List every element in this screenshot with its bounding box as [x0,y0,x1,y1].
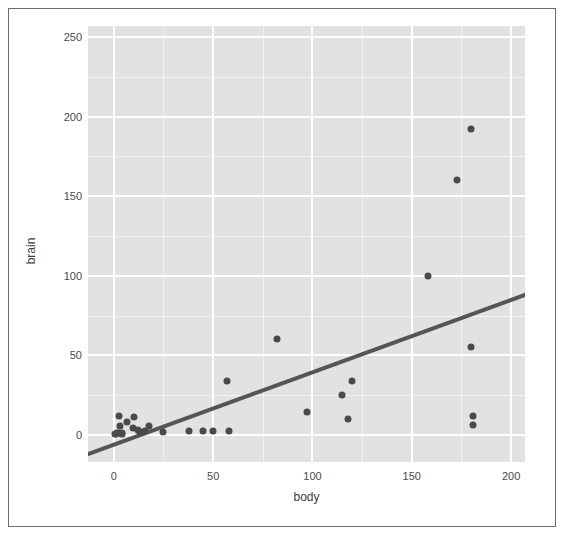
data-point [210,427,217,434]
y-axis-label: brain [24,238,38,265]
data-point [468,126,475,133]
y-tick-label-0: 0 [52,429,82,441]
y-tick-label-250: 250 [52,31,82,43]
data-point [145,423,152,430]
y-tick-label-150: 150 [52,190,82,202]
y-tick-label-200: 200 [52,111,82,123]
data-point [117,423,124,430]
data-point [454,177,461,184]
plot-panel [88,26,525,462]
data-point [226,427,233,434]
y-tick-label-100: 100 [52,270,82,282]
data-point [345,416,352,423]
data-point [303,408,310,415]
data-point [468,344,475,351]
regression-line [88,26,525,462]
data-point [339,392,346,399]
data-point [115,412,122,419]
data-point [160,428,167,435]
data-point [470,412,477,419]
x-tick-label-150: 150 [403,470,421,482]
data-point [273,336,280,343]
data-point [349,377,356,384]
x-axis-label: body [293,490,319,504]
x-tick-label-50: 50 [207,470,219,482]
data-point [130,413,137,420]
x-tick-label-100: 100 [303,470,321,482]
x-tick-label-0: 0 [111,470,117,482]
data-point [470,422,477,429]
data-point [224,377,231,384]
x-tick-label-200: 200 [502,470,520,482]
figure-container: 050100150200250 050100150200 brain body [0,0,566,537]
data-point [424,272,431,279]
data-point [186,427,193,434]
data-point [200,427,207,434]
y-tick-label-50: 50 [52,349,82,361]
data-point [119,430,126,437]
